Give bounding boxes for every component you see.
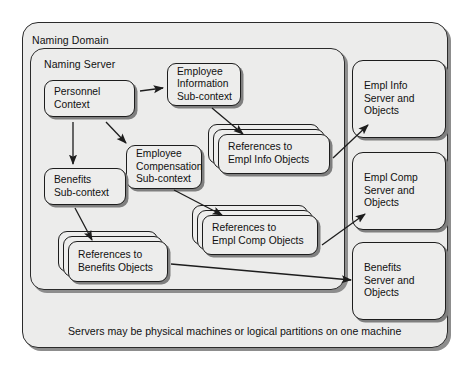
stack-card-front[interactable]: References to Empl Comp Objects [202, 215, 318, 255]
personnel-context-label: Personnel Context [54, 86, 100, 111]
references-to-empl-comp-objects-stack[interactable]: References to Empl Comp Objects [192, 205, 318, 256]
employee-compensation-sub-context-label: Employee Compensation Sub-context [136, 148, 202, 185]
references-to-benefits-objects-stack[interactable]: References to Benefits Objects [58, 231, 168, 283]
empl-info-server-node[interactable]: Empl Info Server and Objects [352, 60, 446, 138]
benefits-sub-context-label: Benefits Sub-context [54, 174, 109, 199]
empl-comp-server-node[interactable]: Empl Comp Server and Objects [352, 152, 446, 230]
personnel-context-node[interactable]: Personnel Context [44, 80, 135, 117]
benefits-server-node[interactable]: Benefits Server and Objects [352, 242, 446, 320]
diagram-caption: Servers may be physical machines or logi… [68, 325, 401, 337]
references-to-benefits-objects-label: References to Benefits Objects [78, 249, 153, 274]
empl-info-server-label: Empl Info Server and Objects [364, 80, 414, 117]
stack-card-front[interactable]: References to Empl Info Objects [218, 134, 330, 174]
diagram-canvas: Naming Domain Naming Server Personnel Co… [0, 0, 474, 380]
employee-compensation-sub-context-node[interactable]: Employee Compensation Sub-context [126, 145, 202, 189]
naming-server-label: Naming Server [44, 58, 115, 70]
empl-comp-server-label: Empl Comp Server and Objects [364, 172, 418, 209]
benefits-server-label: Benefits Server and Objects [364, 262, 414, 299]
stack-card-front[interactable]: References to Benefits Objects [68, 241, 168, 282]
employee-information-sub-context-label: Employee Information Sub-context [177, 66, 232, 103]
references-to-empl-info-objects-stack[interactable]: References to Empl Info Objects [208, 124, 330, 175]
employee-information-sub-context-node[interactable]: Employee Information Sub-context [167, 63, 241, 106]
references-to-empl-info-objects-label: References to Empl Info Objects [228, 141, 309, 166]
naming-domain-label: Naming Domain [32, 34, 109, 46]
benefits-sub-context-node[interactable]: Benefits Sub-context [44, 168, 126, 205]
references-to-empl-comp-objects-label: References to Empl Comp Objects [212, 222, 304, 247]
